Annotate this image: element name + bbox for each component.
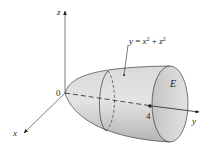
region-label-e: E [169, 78, 176, 89]
y-axis-label: y [191, 116, 196, 126]
x-axis-label: x [12, 128, 17, 138]
z-axis-label: z [56, 7, 61, 17]
z-axis: z [56, 7, 65, 93]
tick-label-4: 4 [146, 111, 151, 121]
paraboloid-diagram: z x y 4 0 E y = x2 + z2 [0, 0, 212, 155]
origin-label: 0 [56, 88, 61, 98]
equation-label: y = x2 + z2 [128, 36, 166, 46]
x-axis: x [12, 93, 65, 138]
